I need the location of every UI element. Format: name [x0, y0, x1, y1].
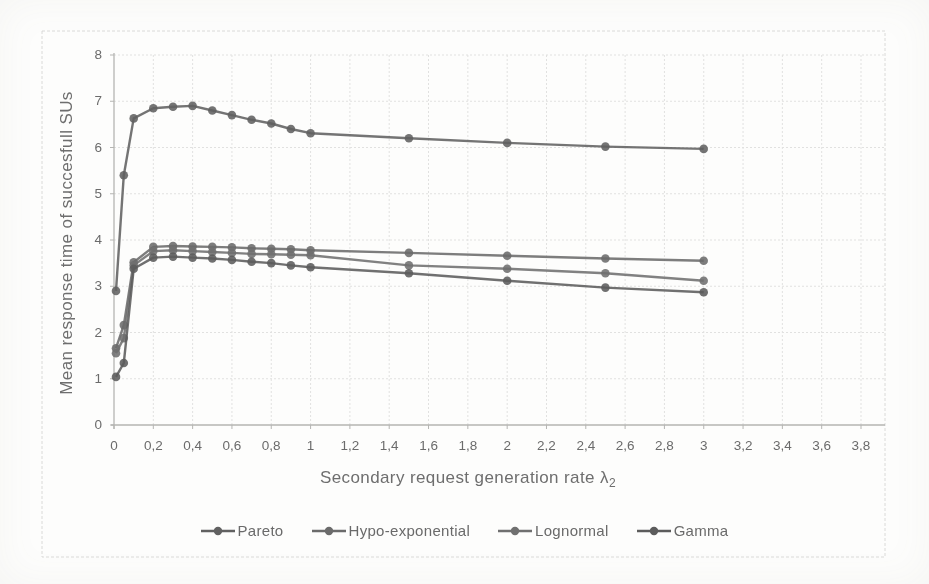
legend-item-lognormal: Lognormal: [498, 522, 609, 539]
series-marker-gamma: [208, 254, 217, 263]
x-tick-label: 3,2: [723, 438, 763, 453]
legend-line-marker-icon: [498, 525, 532, 537]
series-marker-gamma: [306, 263, 315, 272]
series-marker-pareto: [287, 125, 296, 134]
x-axis-title: Secondary request generation rate λ2: [320, 468, 616, 490]
x-tick-label: 1: [291, 438, 331, 453]
x-tick-label: 1,8: [448, 438, 488, 453]
series-marker-hypo-exponential: [601, 254, 610, 263]
series-marker-pareto: [112, 287, 121, 296]
x-tick-label: 1,4: [369, 438, 409, 453]
series-marker-lognormal: [287, 251, 296, 260]
series-marker-gamma: [149, 253, 158, 262]
series-marker-pareto: [228, 111, 237, 120]
series-marker-pareto: [247, 116, 256, 125]
series-marker-lognormal: [405, 261, 414, 270]
series-marker-gamma: [601, 283, 610, 292]
x-tick-label: 2,4: [566, 438, 606, 453]
series-marker-gamma: [120, 359, 129, 368]
x-tick-label: 1,2: [330, 438, 370, 453]
chart-plot: [0, 0, 929, 584]
legend-label: Gamma: [674, 522, 729, 539]
x-tick-label: 3: [684, 438, 724, 453]
legend-line-marker-icon: [201, 525, 235, 537]
series-marker-hypo-exponential: [699, 257, 708, 266]
x-tick-label: 1,6: [409, 438, 449, 453]
legend-label: Pareto: [238, 522, 284, 539]
series-marker-pareto: [699, 145, 708, 154]
series-marker-pareto: [267, 119, 276, 128]
series-marker-gamma: [503, 276, 512, 285]
x-axis-title-subscript: 2: [609, 476, 616, 490]
series-marker-hypo-exponential: [405, 249, 414, 258]
x-tick-label: 3,4: [762, 438, 802, 453]
x-axis-title-text: Secondary request generation rate λ: [320, 468, 609, 487]
x-tick-label: 2,6: [605, 438, 645, 453]
series-marker-pareto: [120, 171, 129, 180]
x-tick-label: 2: [487, 438, 527, 453]
series-marker-gamma: [112, 373, 121, 382]
series-marker-pareto: [601, 142, 610, 151]
scanned-chart-page: 012345678 00,20,40,60,811,21,41,61,822,2…: [0, 0, 929, 584]
series-marker-hypo-exponential: [503, 251, 512, 260]
series-marker-lognormal: [601, 269, 610, 278]
x-tick-label: 2,8: [644, 438, 684, 453]
series-marker-pareto: [188, 102, 197, 111]
y-axis-title: Mean response time of succesfull SUs: [57, 91, 77, 395]
y-tick-label: 8: [68, 47, 102, 63]
series-marker-gamma: [129, 264, 138, 273]
series-marker-gamma: [405, 269, 414, 278]
series-marker-pareto: [129, 114, 138, 123]
x-tick-label: 0,6: [212, 438, 252, 453]
legend-item-hypo-exponential: Hypo-exponential: [312, 522, 471, 539]
x-tick-label: 0,8: [251, 438, 291, 453]
chart-legend: ParetoHypo-exponentialLognormalGamma: [0, 522, 929, 539]
series-marker-lognormal: [503, 264, 512, 273]
x-tick-label: 2,2: [526, 438, 566, 453]
y-axis-title-text: Mean response time of succesfull SUs: [57, 91, 76, 395]
series-marker-pareto: [306, 129, 315, 138]
series-marker-pareto: [503, 139, 512, 148]
series-marker-gamma: [169, 252, 178, 261]
chart-figure: 012345678 00,20,40,60,811,21,41,61,822,2…: [0, 0, 929, 584]
series-marker-gamma: [188, 253, 197, 262]
x-tick-label: 3,6: [802, 438, 842, 453]
series-marker-pareto: [169, 103, 178, 112]
series-marker-gamma: [699, 288, 708, 297]
series-marker-gamma: [287, 261, 296, 270]
series-marker-pareto: [208, 106, 217, 115]
series-marker-lognormal: [699, 276, 708, 285]
series-marker-gamma: [228, 256, 237, 265]
series-marker-pareto: [149, 104, 158, 113]
series-marker-gamma: [247, 257, 256, 266]
series-marker-lognormal: [112, 349, 121, 358]
legend-item-gamma: Gamma: [637, 522, 729, 539]
x-tick-label: 0,2: [133, 438, 173, 453]
series-marker-lognormal: [247, 250, 256, 259]
series-marker-gamma: [267, 259, 276, 268]
series-marker-pareto: [405, 134, 414, 143]
x-tick-label: 3,8: [841, 438, 881, 453]
y-tick-label: 0: [68, 417, 102, 433]
legend-line-marker-icon: [637, 525, 671, 537]
series-marker-lognormal: [306, 251, 315, 260]
x-tick-label: 0,4: [173, 438, 213, 453]
x-tick-label: 0: [94, 438, 134, 453]
legend-label: Lognormal: [535, 522, 609, 539]
legend-label: Hypo-exponential: [349, 522, 471, 539]
series-marker-lognormal: [267, 250, 276, 259]
legend-line-marker-icon: [312, 525, 346, 537]
legend-item-pareto: Pareto: [201, 522, 284, 539]
